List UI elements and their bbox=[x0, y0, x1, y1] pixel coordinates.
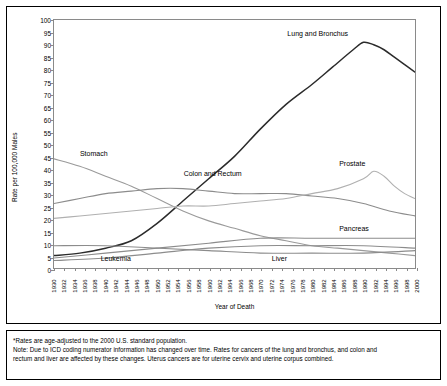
y-axis-tick-mark bbox=[51, 233, 54, 234]
y-axis-tick-mark bbox=[51, 95, 54, 96]
x-axis-tick-label: 1944 bbox=[124, 279, 130, 292]
x-axis-tick-label: 1960 bbox=[207, 279, 213, 292]
x-axis-tick-mark bbox=[282, 268, 283, 271]
x-axis-tick-mark bbox=[365, 268, 366, 271]
x-axis-tick-mark bbox=[95, 268, 96, 271]
x-axis-tick-mark bbox=[210, 268, 211, 271]
x-axis-tick-mark bbox=[178, 268, 179, 271]
x-axis-tick-mark bbox=[158, 268, 159, 271]
x-axis-tick-mark bbox=[127, 268, 128, 271]
x-axis-tick-label: 1982 bbox=[321, 279, 327, 292]
x-axis-tick-mark bbox=[261, 268, 262, 271]
y-axis-tick-mark bbox=[51, 45, 54, 46]
x-axis-tick-label: 1962 bbox=[217, 279, 223, 292]
x-axis-tick-mark bbox=[64, 268, 65, 271]
footnote-line-1: *Rates are age-adjusted to the 2000 U.S.… bbox=[13, 336, 434, 345]
y-axis-tick-mark bbox=[51, 158, 54, 159]
x-axis-tick-label: 1950 bbox=[155, 279, 161, 292]
x-axis-tick-label: 1964 bbox=[227, 279, 233, 292]
x-axis-tick-mark bbox=[189, 268, 190, 271]
x-axis-tick-label: 2000 bbox=[414, 279, 420, 292]
x-axis-tick-label: 1966 bbox=[238, 279, 244, 292]
x-axis-tick-label: 1956 bbox=[186, 279, 192, 292]
x-axis-tick-mark bbox=[407, 268, 408, 271]
y-axis-tick-mark bbox=[51, 183, 54, 184]
y-axis-tick-mark bbox=[51, 195, 54, 196]
x-axis-tick-label: 1948 bbox=[144, 279, 150, 292]
y-axis-tick-mark bbox=[51, 33, 54, 34]
x-axis-tick-label: 1998 bbox=[404, 279, 410, 292]
y-axis-tick-mark bbox=[51, 258, 54, 259]
y-axis-title: Rate per 100,000 Males bbox=[11, 97, 25, 237]
x-axis-tick-label: 1986 bbox=[341, 279, 347, 292]
x-axis-tick-label: 1988 bbox=[352, 279, 358, 292]
y-axis-tick-label: 30 bbox=[44, 192, 51, 199]
x-axis-tick-mark bbox=[116, 268, 117, 271]
y-axis-tick-mark bbox=[51, 108, 54, 109]
chart-frame: Rate per 100,000 Males 05101520253035404… bbox=[6, 6, 441, 324]
x-axis-tick-mark bbox=[396, 268, 397, 271]
y-axis-tick-label: 65 bbox=[44, 104, 51, 111]
y-axis-tick-mark bbox=[51, 145, 54, 146]
plot-area: 0510152025303540455055606570758085909510… bbox=[53, 19, 416, 269]
y-axis-tick-mark bbox=[51, 83, 54, 84]
x-axis-tick-label: 1996 bbox=[393, 279, 399, 292]
y-axis-tick-mark bbox=[51, 245, 54, 246]
y-axis-tick-label: 90 bbox=[44, 42, 51, 49]
x-axis-tick-mark bbox=[324, 268, 325, 271]
x-axis-tick-mark bbox=[147, 268, 148, 271]
x-axis-tick-mark bbox=[313, 268, 314, 271]
y-axis-tick-label: 80 bbox=[44, 67, 51, 74]
x-axis-tick-label: 1974 bbox=[279, 279, 285, 292]
chart-screenshot: Rate per 100,000 Males 05101520253035404… bbox=[0, 0, 447, 386]
y-axis-tick-label: 85 bbox=[44, 54, 51, 61]
y-axis-tick-label: 95 bbox=[44, 29, 51, 36]
series-label-colon-and-rectum: Colon and Rectum bbox=[184, 170, 242, 177]
x-axis-tick-mark bbox=[417, 268, 418, 271]
y-axis-tick-label: 45 bbox=[44, 154, 51, 161]
x-axis-tick-mark bbox=[303, 268, 304, 271]
x-axis-tick-mark bbox=[54, 268, 55, 271]
x-axis-tick-label: 1934 bbox=[72, 279, 78, 292]
x-axis-tick-mark bbox=[230, 268, 231, 271]
x-axis-tick-label: 1968 bbox=[248, 279, 254, 292]
x-axis-tick-label: 1978 bbox=[300, 279, 306, 292]
y-axis-tick-label: 40 bbox=[44, 167, 51, 174]
y-axis-tick-label: 20 bbox=[44, 217, 51, 224]
series-label-leukemia: Leukemia bbox=[101, 255, 131, 262]
x-axis-tick-mark bbox=[168, 268, 169, 271]
series-line-prostate bbox=[54, 171, 415, 218]
x-axis-tick-mark bbox=[220, 268, 221, 271]
x-axis-tick-label: 1972 bbox=[269, 279, 275, 292]
y-axis-tick-mark bbox=[51, 70, 54, 71]
x-axis-tick-label: 1958 bbox=[196, 279, 202, 292]
x-axis-tick-label: 1984 bbox=[331, 279, 337, 292]
x-axis-tick-label: 1970 bbox=[258, 279, 264, 292]
y-axis-tick-label: 70 bbox=[44, 92, 51, 99]
y-axis-tick-mark bbox=[51, 20, 54, 21]
y-axis-tick-label: 10 bbox=[44, 242, 51, 249]
x-axis-tick-label: 1940 bbox=[103, 279, 109, 292]
y-axis-tick-mark bbox=[51, 220, 54, 221]
footnote-box: *Rates are age-adjusted to the 2000 U.S.… bbox=[6, 330, 441, 380]
x-axis-tick-mark bbox=[334, 268, 335, 271]
x-axis-tick-label: 1938 bbox=[92, 279, 98, 292]
x-axis-tick-label: 1952 bbox=[165, 279, 171, 292]
series-line-lung-and-bronchus bbox=[54, 42, 415, 255]
x-axis-tick-label: 1992 bbox=[373, 279, 379, 292]
x-axis-tick-label: 1994 bbox=[383, 279, 389, 292]
x-axis-tick-label: 1976 bbox=[290, 279, 296, 292]
y-axis-tick-label: 75 bbox=[44, 79, 51, 86]
y-axis-tick-mark bbox=[51, 58, 54, 59]
y-axis-tick-label: 25 bbox=[44, 204, 51, 211]
x-axis-tick-label: 1932 bbox=[61, 279, 67, 292]
x-axis-tick-mark bbox=[344, 268, 345, 271]
plot-wrapper: Rate per 100,000 Males 05101520253035404… bbox=[7, 7, 442, 325]
series-line-colon-and-rectum bbox=[54, 188, 415, 216]
footnote-line-2: Note: Due to ICD coding numerator inform… bbox=[13, 345, 434, 354]
x-axis-tick-label: 1980 bbox=[310, 279, 316, 292]
y-axis-tick-label: 60 bbox=[44, 117, 51, 124]
y-axis-tick-label: 55 bbox=[44, 129, 51, 136]
footnote-line-3: rectum and liver are affected by these c… bbox=[13, 354, 434, 363]
x-axis-tick-label: 1942 bbox=[113, 279, 119, 292]
